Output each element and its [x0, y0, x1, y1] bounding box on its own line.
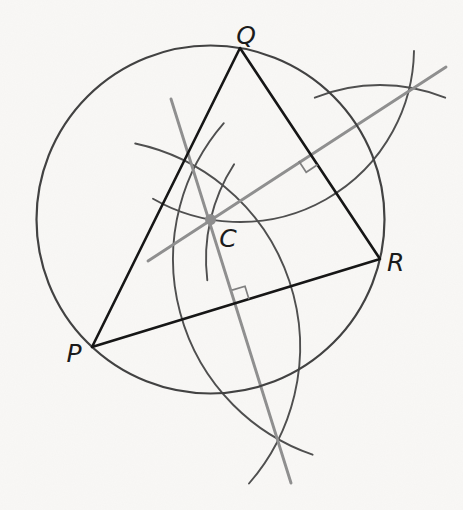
vertex-label-q: Q — [236, 21, 256, 50]
center-label-c: C — [219, 224, 237, 253]
geometry-diagram: P Q R C — [0, 0, 463, 510]
circumcenter-dot — [205, 214, 216, 225]
vertex-label-p: P — [66, 339, 82, 368]
vertex-label-r: R — [387, 248, 404, 277]
figure-stage: P Q R C — [0, 0, 463, 510]
